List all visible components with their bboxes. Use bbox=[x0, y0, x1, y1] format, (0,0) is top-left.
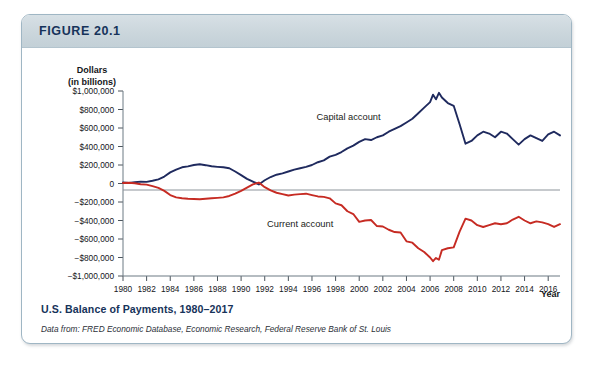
caption-block: U.S. Balance of Payments, 1980–2017 Data… bbox=[41, 303, 561, 334]
x-tick-label: 2004 bbox=[397, 284, 416, 294]
series-label-capital-account: Capital account bbox=[317, 112, 382, 122]
y-axis-ticks: $1,000,000$800,000$600,000$400,000$200,0… bbox=[68, 86, 123, 281]
chart-plot-area: Dollars (in billions) $1,000,000$800,000… bbox=[22, 47, 572, 299]
series-annotations: Capital accountCurrent account bbox=[267, 112, 381, 229]
x-tick-label: 1992 bbox=[255, 284, 274, 294]
x-tick-label: 1994 bbox=[279, 284, 298, 294]
y-tick-label: $800,000 bbox=[79, 105, 114, 115]
x-tick-label: 2012 bbox=[492, 284, 511, 294]
y-tick-label: −$400,000 bbox=[75, 216, 115, 226]
figure-header-bar: FIGURE 20.1 bbox=[22, 15, 571, 48]
caption-title: U.S. Balance of Payments, 1980–2017 bbox=[41, 303, 561, 315]
x-tick-label: 1988 bbox=[208, 284, 227, 294]
y-tick-label: −$200,000 bbox=[75, 197, 115, 207]
y-tick-label: $600,000 bbox=[79, 123, 114, 133]
series-line-capital-account bbox=[123, 93, 560, 185]
y-tick-label: 0 bbox=[109, 179, 114, 189]
x-tick-label: 2002 bbox=[374, 284, 393, 294]
x-tick-label: 1998 bbox=[326, 284, 345, 294]
x-tick-label: 2014 bbox=[515, 284, 534, 294]
x-tick-label: 1996 bbox=[303, 284, 322, 294]
x-tick-label: 1980 bbox=[114, 284, 133, 294]
figure-number-label: FIGURE 20.1 bbox=[39, 24, 121, 38]
caption-source: Data from: FRED Economic Database, Econo… bbox=[41, 324, 561, 334]
y-tick-label: $400,000 bbox=[79, 142, 114, 152]
x-tick-label: 1990 bbox=[232, 284, 251, 294]
x-tick-label: 1982 bbox=[137, 284, 156, 294]
series-label-current-account: Current account bbox=[267, 219, 334, 229]
balance-of-payments-line-chart: Dollars (in billions) $1,000,000$800,000… bbox=[22, 47, 572, 299]
figure-card: FIGURE 20.1 Dollars (in billions) $1,000… bbox=[21, 14, 572, 344]
x-tick-label: 1986 bbox=[185, 284, 204, 294]
y-axis-title-line1: Dollars bbox=[77, 65, 108, 75]
x-tick-label: 2008 bbox=[444, 284, 463, 294]
series-line-current-account bbox=[123, 183, 560, 262]
y-tick-label: −$1,000,000 bbox=[68, 271, 115, 281]
x-tick-label: 2000 bbox=[350, 284, 369, 294]
y-tick-label: −$800,000 bbox=[75, 253, 115, 263]
x-axis-ticks: 1980198219841986198819901992199419961998… bbox=[114, 276, 558, 294]
x-tick-label: 2006 bbox=[421, 284, 440, 294]
x-tick-label: 2010 bbox=[468, 284, 487, 294]
x-axis-title: Year bbox=[541, 289, 561, 299]
y-axis-title: Dollars (in billions) bbox=[68, 65, 116, 87]
y-tick-label: $200,000 bbox=[79, 160, 114, 170]
y-tick-label: $1,000,000 bbox=[72, 86, 114, 96]
y-tick-label: −$600,000 bbox=[75, 234, 115, 244]
x-tick-label: 1984 bbox=[161, 284, 180, 294]
